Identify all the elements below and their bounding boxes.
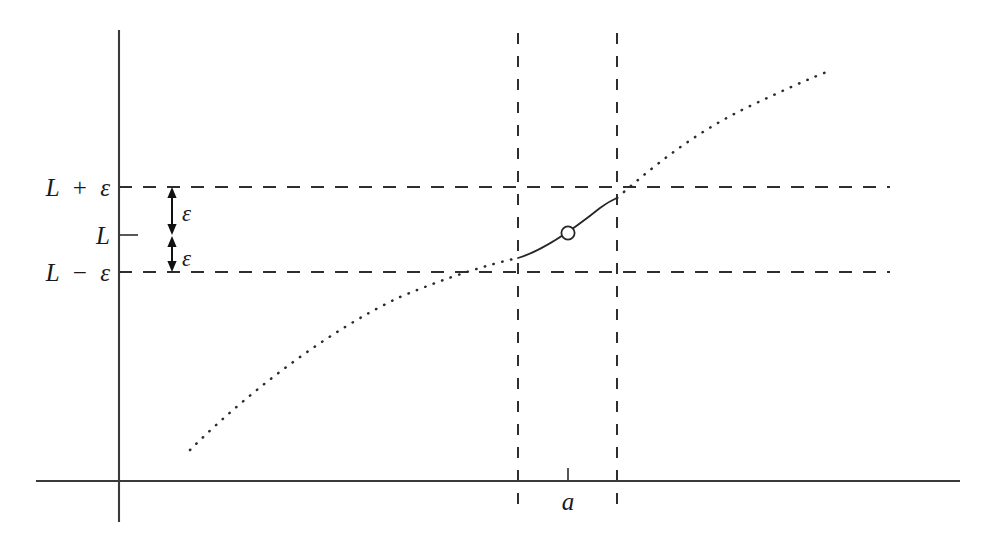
label-L-minus-epsilon-base: L bbox=[45, 259, 60, 286]
label-L-minus-epsilon: L − ε bbox=[45, 259, 111, 286]
label-L-minus-epsilon-operator: − bbox=[73, 259, 87, 286]
curve-dotted-left bbox=[190, 258, 518, 450]
label-epsilon-lower: ε bbox=[182, 246, 192, 271]
epsilon-arrow-lower-head-top bbox=[167, 236, 176, 247]
epsilon-arrow-upper-head-top bbox=[167, 187, 176, 198]
epsilon-arrow-upper-head-bottom bbox=[167, 224, 176, 235]
limit-epsilon-diagram: L + ε L L − ε ε ε a bbox=[0, 0, 998, 550]
label-epsilon-upper: ε bbox=[182, 201, 192, 226]
label-L-plus-epsilon-base: L bbox=[45, 174, 60, 201]
curve-dotted-right bbox=[617, 70, 832, 198]
label-x-point-a: a bbox=[562, 488, 575, 515]
label-L-plus-epsilon: L + ε bbox=[45, 174, 111, 201]
label-L-minus-epsilon-offset: ε bbox=[100, 259, 110, 286]
label-limit-L: L bbox=[95, 222, 110, 249]
label-L-plus-epsilon-offset: ε bbox=[100, 174, 110, 201]
diagram-canvas: L + ε L L − ε ε ε a bbox=[0, 0, 998, 550]
removable-discontinuity-hole bbox=[561, 226, 574, 239]
epsilon-arrow-lower-head-bottom bbox=[167, 261, 176, 272]
label-L-plus-epsilon-operator: + bbox=[73, 174, 87, 201]
